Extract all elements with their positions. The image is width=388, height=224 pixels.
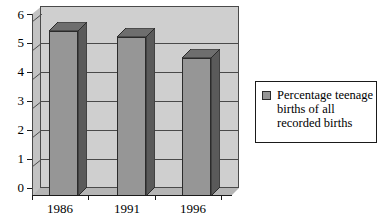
y-tick-label-4: 4 <box>18 65 25 78</box>
x-tick-mark-1 <box>88 195 89 200</box>
x-tick-mark-2 <box>155 195 156 200</box>
chart-figure: 0 1 2 3 4 5 6 <box>0 0 388 224</box>
x-tick-mark-0 <box>32 195 33 200</box>
x-tick-label-1986: 1986 <box>35 201 85 216</box>
plot-area <box>32 6 239 196</box>
x-tick-label-1991: 1991 <box>102 201 152 216</box>
y-tick-label-6: 6 <box>18 8 25 21</box>
legend-swatch-icon <box>262 91 271 100</box>
bar-1996-front <box>182 58 211 196</box>
x-axis-baseline <box>32 195 232 196</box>
y-tick-label-0: 0 <box>18 181 25 194</box>
y-tick-label-2: 2 <box>18 123 25 136</box>
chart-legend: Percentage teenage births of all recorde… <box>255 81 377 143</box>
y-tick-label-5: 5 <box>18 36 25 49</box>
y-tick-label-3: 3 <box>18 94 25 107</box>
bar-1996-side-shape <box>211 49 220 196</box>
legend-item-0[interactable]: Percentage teenage births of all recorde… <box>262 88 374 130</box>
bar-1986-front <box>49 31 78 196</box>
bar-1991-side-shape <box>146 28 155 196</box>
x-tick-label-1996: 1996 <box>168 201 218 216</box>
bar-1986-side-shape <box>78 22 87 196</box>
bar-1991-front <box>117 37 146 196</box>
plot-left-wall-edge <box>32 14 33 196</box>
bar-1996[interactable] <box>182 49 220 196</box>
bar-1991[interactable] <box>117 28 155 196</box>
y-tick-label-1: 1 <box>18 152 25 165</box>
legend-label: Percentage teenage births of all recorde… <box>277 88 374 130</box>
bar-1986[interactable] <box>49 22 87 196</box>
x-tick-mark-3 <box>221 195 222 200</box>
y-axis: 0 1 2 3 4 5 6 <box>0 0 32 224</box>
